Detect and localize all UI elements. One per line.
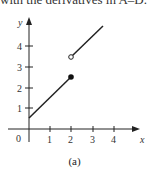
open-endpoint-marker — [69, 55, 74, 60]
x-axis-label: x — [139, 134, 145, 145]
x-tick-0: 0 — [16, 133, 21, 144]
y-tick-4: 4 — [17, 41, 22, 52]
y-tick-3: 3 — [17, 62, 22, 73]
segment-1 — [29, 77, 71, 118]
figure-caption: (a) — [0, 155, 149, 167]
x-tick-3: 3 — [90, 134, 95, 145]
x-tick-2: 2 — [68, 134, 73, 145]
segment-2 — [73, 26, 104, 56]
x-axis-arrow-icon — [132, 126, 140, 132]
y-tick-2: 2 — [17, 83, 22, 94]
x-tick-1: 1 — [47, 134, 52, 145]
y-axis-label: y — [17, 17, 23, 28]
chart: y x 0 1 2 3 4 1 2 3 4 — [0, 0, 149, 172]
x-tick-4: 4 — [111, 134, 116, 145]
y-tick-1: 1 — [17, 103, 22, 114]
filled-endpoint-marker — [68, 74, 74, 80]
y-axis-arrow-icon — [26, 17, 32, 25]
